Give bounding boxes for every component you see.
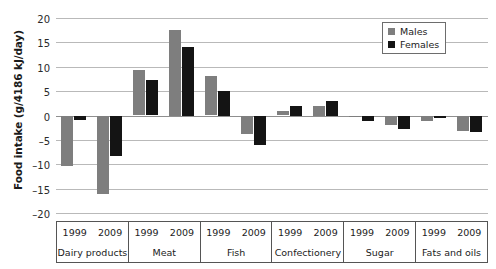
y-axis-tick-label: –10 bbox=[32, 160, 50, 171]
x-axis-group-fats-and-oils: 19992009Fats and oils bbox=[416, 222, 487, 262]
x-axis-year-label: 1999 bbox=[134, 227, 158, 238]
y-axis-tick-label: 5 bbox=[44, 87, 50, 98]
bar-fats-and-oils-2009-males bbox=[457, 116, 469, 132]
bar-dairy-products-1999-females bbox=[74, 116, 86, 121]
bar-fats-and-oils-2009-females bbox=[470, 116, 482, 132]
bar-sugar-2009-females bbox=[398, 116, 410, 130]
y-axis-tick-label: –5 bbox=[39, 135, 50, 146]
bar-sugar-1999-males bbox=[349, 116, 361, 118]
x-axis-year-row: 19992009 bbox=[272, 222, 343, 242]
bar-confectionery-2009-females bbox=[326, 101, 338, 116]
legend-label-males: Males bbox=[400, 26, 427, 37]
bar-chart: Food intake (g/4186 kJ/day) 20151050–5–1… bbox=[0, 0, 496, 269]
bar-fish-1999-females bbox=[218, 91, 230, 115]
x-axis-year-row: 19992009 bbox=[129, 222, 200, 242]
x-axis-year-label: 2009 bbox=[98, 227, 122, 238]
bar-fish-1999-males bbox=[205, 76, 217, 115]
bar-sugar-1999-females bbox=[362, 116, 374, 122]
y-axis-tick-label: 10 bbox=[37, 62, 50, 73]
bar-confectionery-1999-males bbox=[277, 111, 289, 115]
x-axis-group-meat: 19992009Meat bbox=[129, 222, 201, 262]
bar-meat-2009-females bbox=[182, 47, 194, 115]
x-axis-year-row: 19992009 bbox=[344, 222, 415, 242]
x-axis-year-label: 2009 bbox=[385, 227, 409, 238]
x-axis-group-label: Sugar bbox=[344, 242, 415, 262]
legend: Males Females bbox=[382, 22, 446, 54]
x-axis-year-label: 1999 bbox=[278, 227, 302, 238]
y-axis-tick-label: 15 bbox=[37, 38, 50, 49]
bar-meat-1999-males bbox=[133, 70, 145, 116]
x-axis-group-table: 19992009Dairy products19992009Meat199920… bbox=[56, 221, 488, 263]
x-axis-year-label: 2009 bbox=[314, 227, 338, 238]
x-axis-group-sugar: 19992009Sugar bbox=[344, 222, 416, 262]
x-axis-group-label: Meat bbox=[129, 242, 200, 262]
x-axis-year-label: 2009 bbox=[170, 227, 194, 238]
x-axis-year-row: 19992009 bbox=[201, 222, 272, 242]
x-axis-group-label: Fats and oils bbox=[416, 242, 487, 262]
x-axis-year-label: 2009 bbox=[242, 227, 266, 238]
bar-dairy-products-2009-males bbox=[97, 116, 109, 194]
y-axis-tick-label: 20 bbox=[37, 14, 50, 25]
x-axis-group-dairy-products: 19992009Dairy products bbox=[57, 222, 129, 262]
bar-fish-2009-females bbox=[254, 116, 266, 145]
x-axis-group-label: Dairy products bbox=[57, 242, 128, 262]
y-axis-title: Food intake (g/4186 kJ/day) bbox=[12, 0, 24, 220]
x-axis-year-row: 19992009 bbox=[57, 222, 128, 242]
bar-fats-and-oils-1999-males bbox=[421, 116, 433, 121]
x-axis-year-label: 2009 bbox=[457, 227, 481, 238]
bar-confectionery-2009-males bbox=[313, 106, 325, 116]
bar-fats-and-oils-1999-females bbox=[434, 116, 446, 119]
bar-dairy-products-1999-males bbox=[61, 116, 73, 166]
y-axis-tick-label: –15 bbox=[32, 184, 50, 195]
bar-confectionery-1999-females bbox=[290, 106, 302, 116]
y-axis-tick-label: –20 bbox=[32, 209, 50, 220]
x-axis-year-label: 1999 bbox=[350, 227, 374, 238]
gridline--20: –20 bbox=[56, 213, 488, 214]
bar-dairy-products-2009-females bbox=[110, 116, 122, 157]
x-axis-group-fish: 19992009Fish bbox=[201, 222, 273, 262]
bar-sugar-2009-males bbox=[385, 116, 397, 125]
bar-fish-2009-males bbox=[241, 116, 253, 134]
bar-meat-2009-males bbox=[169, 30, 181, 115]
x-axis-year-label: 1999 bbox=[63, 227, 87, 238]
legend-item-males: Males bbox=[388, 26, 439, 37]
legend-swatch-males-icon bbox=[388, 28, 395, 35]
x-axis-group-label: Fish bbox=[201, 242, 272, 262]
legend-label-females: Females bbox=[400, 39, 439, 50]
legend-swatch-females-icon bbox=[388, 41, 395, 48]
x-axis-group-label: Confectionery bbox=[272, 242, 343, 262]
x-axis-year-row: 19992009 bbox=[416, 222, 487, 242]
y-axis-tick-label: 0 bbox=[44, 111, 50, 122]
x-axis-year-label: 1999 bbox=[206, 227, 230, 238]
x-axis-year-label: 1999 bbox=[422, 227, 446, 238]
x-axis-group-confectionery: 19992009Confectionery bbox=[272, 222, 344, 262]
bar-meat-1999-females bbox=[146, 80, 158, 116]
legend-item-females: Females bbox=[388, 39, 439, 50]
